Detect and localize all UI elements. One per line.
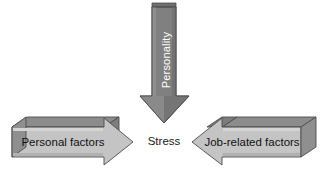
- personal-factors-top-face: [12, 117, 119, 127]
- personality-arrow-right-shade: [172, 7, 176, 96]
- job-related-factors-top-face: [222, 117, 316, 127]
- personal-factors-front-shade: [13, 153, 103, 156]
- personal-factors-front-highlight: [13, 128, 103, 131]
- personality-arrow-left-highlight: [152, 7, 156, 96]
- personality-arrow-label: Personality: [161, 32, 172, 89]
- stress-center-label: Stress: [148, 136, 181, 148]
- diagram-canvas: Personality Personal factors Stress Job-…: [0, 0, 327, 174]
- job-related-factors-arrow-label: Job-related factors: [204, 137, 299, 149]
- personal-factors-arrow-label: Personal factors: [21, 137, 104, 149]
- job-related-factors-front-highlight: [223, 128, 300, 131]
- job-related-factors-front-shade: [223, 153, 300, 156]
